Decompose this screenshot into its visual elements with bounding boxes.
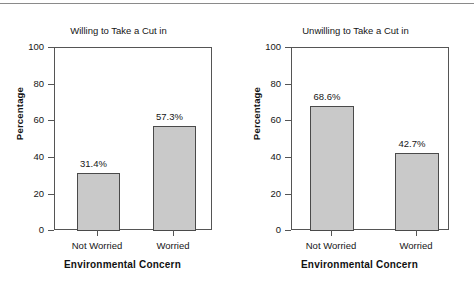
chart-panel-willing: Willing to Take a Cut in Standard of Liv…: [0, 0, 237, 290]
panel-title-line-1: Willing to Take a Cut in: [70, 25, 166, 36]
y-tick-label-0: 0: [20, 225, 44, 234]
x-axis-title: Environmental Concern: [257, 259, 462, 270]
x-axis-title: Environmental Concern: [20, 259, 225, 270]
y-tick-label-100: 100: [20, 42, 44, 51]
x-tick-mark-worried: [173, 230, 174, 236]
x-tick-mark-not-worried: [331, 230, 332, 236]
y-tick-label-0: 0: [257, 225, 281, 234]
panel-title-line-1: Unwilling to Take a Cut in: [302, 25, 409, 36]
bar-value-label-worried: 57.3%: [132, 111, 207, 122]
y-tick-label-100: 100: [257, 42, 281, 51]
x-category-label-worried: Worried: [376, 240, 456, 251]
chart-panel-unwilling: Unwilling to Take a Cut in Standard of L…: [237, 0, 474, 290]
y-tick-label-60: 60: [257, 115, 281, 124]
y-tick-mark-0: [285, 230, 291, 231]
y-tick-mark-0: [48, 230, 54, 231]
bar-worried[interactable]: [153, 126, 196, 231]
y-tick-label-80: 80: [20, 79, 44, 88]
plot-area: [54, 47, 212, 230]
y-tick-label-40: 40: [20, 152, 44, 161]
x-tick-mark-not-worried: [97, 230, 98, 236]
y-tick-label-60: 60: [20, 115, 44, 124]
y-tick-label-80: 80: [257, 79, 281, 88]
bar-value-label-worried: 42.7%: [374, 138, 450, 149]
y-tick-label-20: 20: [20, 189, 44, 198]
y-tick-label-20: 20: [257, 189, 281, 198]
x-category-label-worried: Worried: [133, 240, 213, 251]
x-tick-mark-worried: [416, 230, 417, 236]
bar-value-label-not-worried: 68.6%: [289, 91, 365, 102]
bar-worried[interactable]: [395, 153, 439, 231]
x-category-label-not-worried: Not Worried: [291, 240, 371, 251]
bar-not-worried[interactable]: [310, 106, 354, 231]
bar-not-worried[interactable]: [77, 173, 120, 231]
y-tick-label-40: 40: [257, 152, 281, 161]
x-category-label-not-worried: Not Worried: [57, 240, 137, 251]
bar-value-label-not-worried: 31.4%: [56, 158, 131, 169]
